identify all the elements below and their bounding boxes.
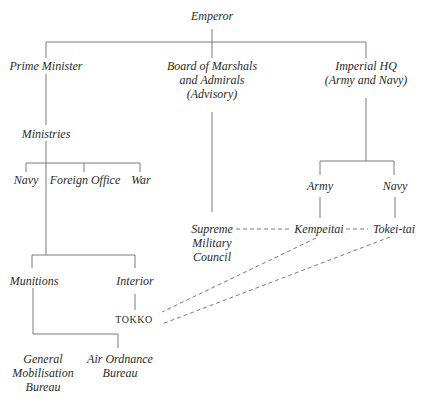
label: Army <box>307 179 333 193</box>
node-ministries: Ministries <box>22 127 71 141</box>
label: (Army and Navy) <box>325 73 408 87</box>
node-kempeitai: Kempeitai <box>294 222 343 236</box>
label: Navy <box>383 179 408 193</box>
label: Mobilisation <box>12 366 73 380</box>
node-foreign-office: Foreign Office <box>50 173 121 187</box>
label: War <box>131 173 151 187</box>
label: Military <box>191 236 233 250</box>
node-munitions: Munitions <box>10 274 59 288</box>
node-prime-minister: Prime Minister <box>10 59 83 73</box>
label: Interior <box>116 274 153 288</box>
node-general-mobilisation-bureau: General Mobilisation Bureau <box>12 352 73 394</box>
node-army: Army <box>307 179 333 193</box>
node-navy-ministry: Navy <box>14 173 39 187</box>
label: Ministries <box>22 127 71 141</box>
node-tokei-tai: Tokei-tai <box>373 222 415 236</box>
label: Bureau <box>12 380 73 394</box>
org-chart: Emperor Prime Minister Board of Marshals… <box>0 0 425 407</box>
label: (Advisory) <box>167 87 257 101</box>
label: Kempeitai <box>294 222 343 236</box>
node-board-of-marshals: Board of Marshals and Admirals (Advisory… <box>167 59 257 101</box>
label: General <box>12 352 73 366</box>
node-tokko: TOKKO <box>115 313 152 327</box>
node-imperial-hq: Imperial HQ (Army and Navy) <box>325 59 408 87</box>
label: Supreme <box>191 222 233 236</box>
label: Council <box>191 250 233 264</box>
label: and Admirals <box>167 73 257 87</box>
label: Prime Minister <box>10 59 83 73</box>
label: Tokei-tai <box>373 222 415 236</box>
label: Munitions <box>10 274 59 288</box>
label: Imperial HQ <box>325 59 408 73</box>
node-interior: Interior <box>116 274 153 288</box>
node-supreme-military-council: Supreme Military Council <box>191 222 233 264</box>
label: Emperor <box>191 9 233 23</box>
node-air-ordnance-bureau: Air Ordnance Bureau <box>87 352 153 380</box>
label: Bureau <box>87 366 153 380</box>
node-emperor: Emperor <box>191 9 233 23</box>
label: Board of Marshals <box>167 59 257 73</box>
label: Foreign Office <box>50 173 121 187</box>
node-war-ministry: War <box>131 173 151 187</box>
label: TOKKO <box>115 313 152 327</box>
node-navy-hq: Navy <box>383 179 408 193</box>
label: Air Ordnance <box>87 352 153 366</box>
label: Navy <box>14 173 39 187</box>
